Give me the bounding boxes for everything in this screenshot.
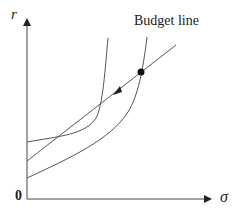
indifference-curve-1	[27, 38, 108, 142]
diagram-canvas	[0, 0, 241, 216]
budget-line	[27, 45, 176, 161]
x-axis-label: σ	[220, 188, 228, 206]
indifference-curve-2	[27, 37, 147, 178]
y-axis-label: r	[11, 6, 17, 23]
origin-label: 0	[15, 188, 22, 204]
budget-line-arrow-icon	[113, 86, 122, 95]
diagram: r σ 0 Budget line	[0, 0, 241, 216]
tangency-point	[138, 69, 145, 76]
budget-line-label: Budget line	[134, 13, 199, 29]
